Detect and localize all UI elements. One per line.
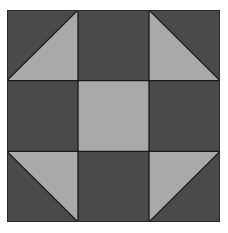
quilt-block-graphic	[7, 10, 220, 222]
quilt-cell	[149, 81, 220, 152]
quilt-cell	[7, 151, 78, 222]
quilt-cell	[7, 81, 78, 152]
quilt-block	[7, 10, 220, 222]
quilt-cell	[78, 10, 149, 81]
quilt-cell	[149, 151, 220, 222]
quilt-cell	[78, 81, 149, 152]
quilt-cell	[78, 151, 149, 222]
quilt-cells	[7, 10, 220, 222]
quilt-cell	[149, 10, 220, 81]
quilt-cell	[7, 10, 78, 81]
